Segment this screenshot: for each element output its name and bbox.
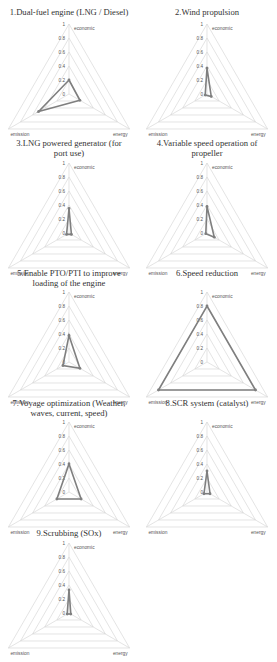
data-point [209, 492, 212, 495]
axis-spoke [146, 492, 207, 527]
data-point [66, 613, 69, 616]
tick-label: 0.8 [197, 434, 204, 439]
data-point [69, 613, 72, 616]
tick-label: 0 [62, 611, 65, 616]
data-point [203, 492, 206, 495]
tick-label: 0.2 [197, 476, 204, 481]
axis-spoke [207, 492, 268, 527]
axis-label-energy: energy [251, 530, 266, 535]
tick-label: 1 [200, 420, 203, 425]
tick-label: 0.8 [59, 555, 66, 560]
tick-label: 0.6 [59, 569, 66, 574]
tick-label: 0.4 [59, 583, 66, 588]
axis-label-economic: economic [212, 424, 233, 429]
axis-label-emission: emission [10, 651, 29, 656]
tick-label: 0.4 [197, 462, 204, 467]
axis-label-emission: emission [148, 530, 167, 535]
tick-label: 0.6 [197, 448, 204, 453]
tick-label: 1 [62, 541, 65, 546]
axis-spoke [69, 613, 130, 648]
tick-label: 0.2 [59, 597, 66, 602]
axis-label-economic: economic [74, 545, 95, 550]
data-point [68, 589, 71, 592]
axis-label-energy: energy [113, 651, 128, 656]
radar-plot: 00.20.40.60.81economicenergyemission [0, 0, 138, 662]
data-point [206, 470, 209, 473]
axis-spoke [8, 613, 69, 648]
radar-plot: 00.20.40.60.81economicenergyemission [138, 0, 276, 662]
